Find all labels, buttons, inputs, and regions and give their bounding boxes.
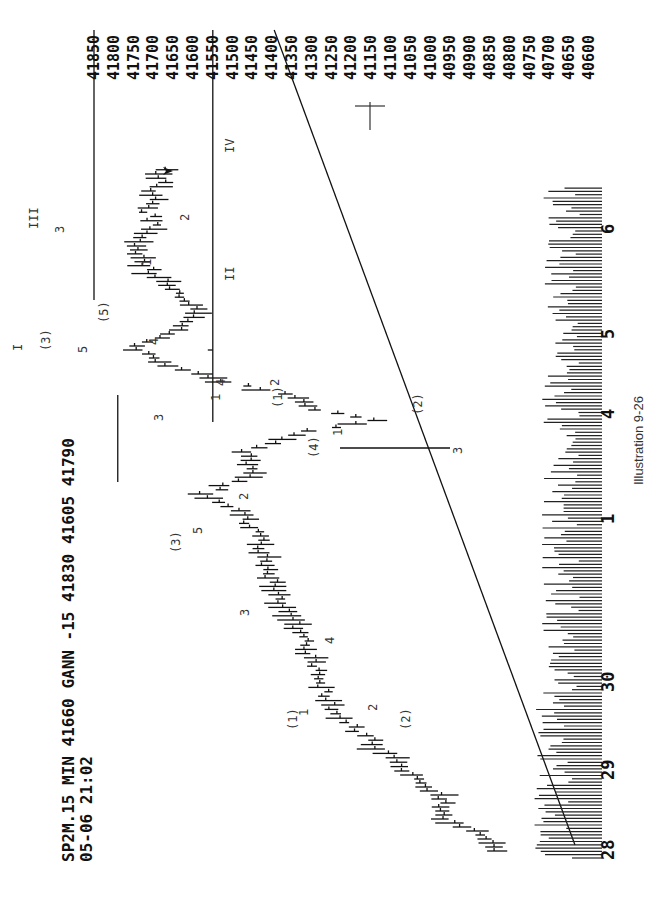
price-tick-label: 41650 (164, 35, 182, 80)
price-tick-label: 40950 (441, 35, 459, 80)
wave-label: 2 (268, 379, 282, 386)
price-tick-label: 41300 (303, 35, 321, 80)
header-line-2: 05-06 21:02 (77, 756, 96, 862)
date-tick-label: 30 (598, 672, 618, 692)
price-tick-label: 40850 (481, 35, 499, 80)
wave-label: (3) (39, 329, 53, 351)
wave-label: (2) (411, 393, 425, 415)
date-tick-label: 29 (598, 760, 618, 780)
wave-label: 2 (178, 214, 192, 221)
wave-label: 2 (366, 704, 380, 711)
wave-label: 1 (140, 259, 154, 266)
date-tick-label: 28 (598, 840, 618, 860)
wave-label: 1 (297, 709, 311, 716)
price-axis: 4185041800417504170041650416004155041500… (85, 35, 598, 80)
date-tick-label: 4 (598, 409, 618, 419)
wave-label: (5) (97, 301, 111, 323)
price-tick-label: 41600 (184, 35, 202, 80)
time-axis: 2829301456 (598, 224, 618, 860)
price-tick-label: 41150 (362, 35, 380, 80)
wave-label: IV (223, 139, 237, 153)
price-tick-label: 41350 (283, 35, 301, 80)
wave-label: 2 (237, 493, 251, 500)
price-tick-label: 40750 (521, 35, 539, 80)
price-tick-label: 40650 (560, 35, 578, 80)
price-tick-label: 41200 (342, 35, 360, 80)
price-tick-label: 41100 (382, 35, 400, 80)
wave-label: 5 (76, 346, 90, 353)
price-tick-label: 40900 (461, 35, 479, 80)
chart-header: SP2M.15 MIN 41660 GANN -15 41830 41605 4… (59, 438, 96, 862)
wave-label: III (27, 207, 41, 229)
wave-label: 4 (214, 379, 228, 386)
volume-histogram (535, 188, 602, 858)
wave-label: 3 (152, 414, 166, 421)
date-tick-label: 1 (598, 514, 618, 524)
wave-label: (4) (307, 436, 321, 458)
figure-caption: Illustration 9-26 (631, 396, 646, 485)
wave-label: II (223, 267, 237, 281)
cross-marker-icon (355, 102, 385, 130)
wave-label: I (11, 344, 25, 351)
wave-label: 3 (451, 447, 465, 454)
price-tick-label: 41450 (243, 35, 261, 80)
price-tick-label: 41750 (125, 35, 143, 80)
price-tick-label: 40700 (540, 35, 558, 80)
price-tick-label: 41800 (105, 35, 123, 80)
price-tick-label: 40800 (501, 35, 519, 80)
wave-label: (2) (399, 708, 413, 730)
wave-labels: (1)12(2)34(3)5(4)123(1)2(2)314I(3)54(5)1… (11, 139, 465, 730)
price-tick-label: 41700 (144, 35, 162, 80)
wave-label: 3 (53, 226, 67, 233)
date-tick-label: 5 (598, 329, 618, 339)
price-tick-label: 40600 (580, 35, 598, 80)
wave-label: 4 (147, 338, 161, 345)
price-bars (123, 167, 507, 851)
price-tick-label: 41500 (224, 35, 242, 80)
date-tick-label: 6 (598, 224, 618, 234)
wave-label: 3 (238, 609, 252, 616)
price-tick-label: 41050 (402, 35, 420, 80)
header-line-1: SP2M.15 MIN 41660 GANN -15 41830 41605 4… (59, 438, 78, 862)
wave-label: 1 (209, 394, 223, 401)
wave-label: 1 (331, 429, 345, 436)
price-tick-label: 41000 (422, 35, 440, 80)
wave-label: 5 (191, 527, 205, 534)
wave-label: (1) (271, 386, 285, 408)
price-tick-label: 41250 (323, 35, 341, 80)
gann-chart: 4185041800417504170041650416004155041500… (0, 0, 671, 900)
wave-label: (3) (169, 531, 183, 553)
reference-lines (94, 30, 575, 845)
wave-label: 4 (323, 637, 337, 644)
